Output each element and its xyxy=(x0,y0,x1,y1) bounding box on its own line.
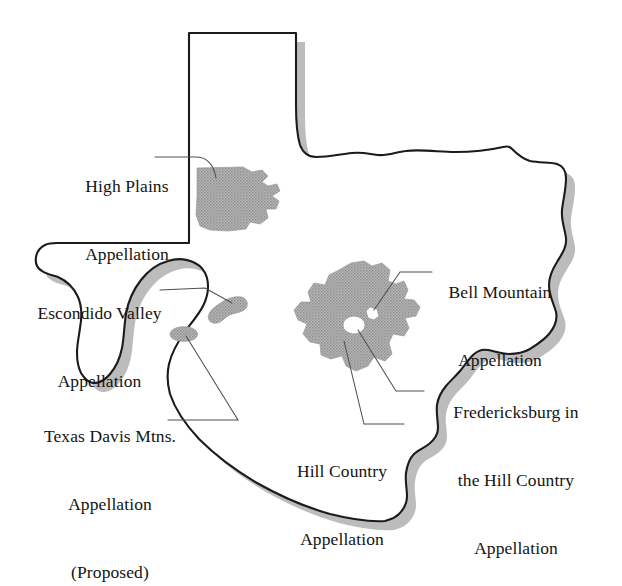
label-texas-davis-line2: Appellation xyxy=(20,493,200,516)
label-texas-davis-line3: (Proposed) xyxy=(20,561,200,584)
label-fredericksburg-line2: the Hill Country xyxy=(427,469,605,492)
label-escondido-valley-line1: Escondido Valley xyxy=(12,302,187,325)
label-bell-mountain-line1: Bell Mountain xyxy=(415,281,585,304)
label-texas-davis-mtns-appellation: Texas Davis Mtns. Appellation (Proposed) xyxy=(20,379,200,586)
label-fredericksburg-line3: Appellation xyxy=(427,537,605,560)
label-hill-country-appellation: Hill Country Appellation xyxy=(272,414,412,586)
appellation-region-fredericksburg[interactable] xyxy=(343,316,365,334)
label-hill-country-line2: Appellation xyxy=(272,528,412,551)
label-hill-country-line1: Hill Country xyxy=(272,460,412,483)
label-fredericksburg-appellation: Fredericksburg in the Hill Country Appel… xyxy=(427,355,605,586)
label-texas-davis-line1: Texas Davis Mtns. xyxy=(20,425,200,448)
label-high-plains-line1: High Plains xyxy=(52,175,202,198)
label-fredericksburg-line1: Fredericksburg in xyxy=(427,401,605,424)
